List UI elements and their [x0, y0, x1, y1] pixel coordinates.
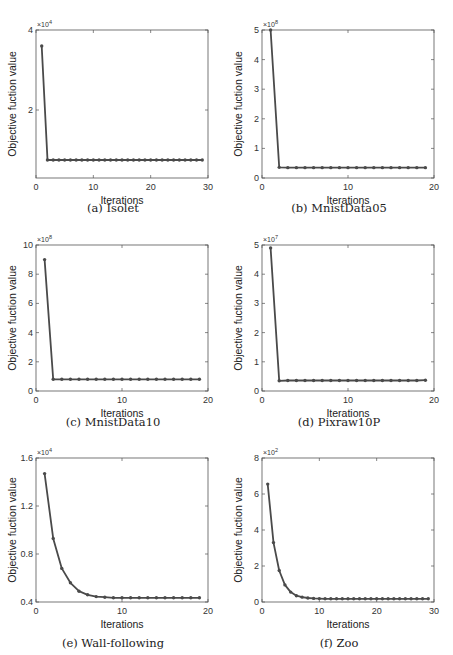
data-point-marker: [163, 596, 166, 599]
x-tick-label: 20: [429, 395, 439, 405]
data-point-marker: [295, 594, 298, 597]
chart-zoo: 010203002468×102IterationsObjective fuct…: [226, 436, 452, 636]
y-tick-label: 4: [254, 55, 259, 65]
data-point-marker: [369, 597, 372, 600]
data-point-marker: [63, 158, 66, 161]
data-point-marker: [321, 166, 324, 169]
y-tick-label: 5: [254, 240, 259, 250]
data-point-marker: [97, 158, 100, 161]
data-point-marker: [120, 158, 123, 161]
data-point-marker: [138, 158, 141, 161]
chart-mnistdata05: 01020012345×108IterationsObjective fucti…: [226, 0, 452, 200]
x-tick-label: 0: [33, 182, 38, 192]
data-point-marker: [306, 596, 309, 599]
data-point-marker: [338, 379, 341, 382]
data-point-marker: [389, 166, 392, 169]
data-point-marker: [183, 158, 186, 161]
panel-isolet: 010203024×104IterationsObjective fuction…: [0, 0, 226, 218]
x-tick-label: 10: [117, 606, 127, 616]
data-point-marker: [386, 597, 389, 600]
data-point-marker: [132, 158, 135, 161]
x-tick-label: 20: [203, 395, 213, 405]
caption-isolet: (a) Isolet: [0, 201, 226, 215]
x-tick-label: 0: [33, 606, 38, 616]
x-tick-label: 10: [88, 182, 98, 192]
y-tick-label: 3: [254, 84, 259, 94]
y-tick-label: 0: [28, 386, 33, 396]
y-exponent-label: ×108: [263, 19, 278, 28]
y-tick-label: 8: [28, 269, 33, 279]
data-point-marker: [129, 378, 132, 381]
y-tick-label: 8: [254, 453, 259, 463]
data-point-marker: [95, 378, 98, 381]
data-point-marker: [398, 597, 401, 600]
data-point-marker: [372, 379, 375, 382]
data-point-marker: [338, 166, 341, 169]
series-line: [42, 46, 203, 160]
x-tick-label: 20: [429, 182, 439, 192]
data-point-marker: [415, 379, 418, 382]
y-tick-label: 4: [28, 25, 33, 35]
data-point-marker: [52, 158, 55, 161]
data-point-marker: [198, 596, 201, 599]
data-point-marker: [392, 597, 395, 600]
data-point-marker: [178, 158, 181, 161]
data-point-marker: [77, 590, 80, 593]
data-point-marker: [407, 379, 410, 382]
data-point-marker: [398, 379, 401, 382]
data-point-marker: [189, 158, 192, 161]
y-tick-label: 6: [28, 298, 33, 308]
data-point-marker: [289, 590, 292, 593]
data-point-marker: [278, 166, 281, 169]
panel-pixraw10p: 01020012345×107IterationsObjective fucti…: [226, 218, 452, 436]
chart-mnistdata10: 010200246810×108IterationsObjective fuct…: [0, 218, 226, 418]
data-point-marker: [424, 378, 427, 381]
y-tick-label: 0: [254, 597, 259, 607]
data-point-marker: [181, 596, 184, 599]
data-point-marker: [155, 378, 158, 381]
data-point-marker: [112, 378, 115, 381]
y-tick-label: 1: [254, 143, 259, 153]
data-point-marker: [323, 597, 326, 600]
data-point-marker: [46, 158, 49, 161]
y-tick-label: 10: [23, 240, 33, 250]
data-point-marker: [303, 166, 306, 169]
data-point-marker: [404, 597, 407, 600]
data-point-marker: [43, 258, 46, 261]
y-exponent-label: ×104: [37, 447, 52, 456]
data-point-marker: [57, 158, 60, 161]
data-point-marker: [278, 379, 281, 382]
data-point-marker: [163, 378, 166, 381]
data-point-marker: [60, 378, 63, 381]
data-point-marker: [346, 597, 349, 600]
y-axis-label: Objective fuction value: [232, 477, 244, 583]
data-point-marker: [364, 166, 367, 169]
data-point-marker: [372, 166, 375, 169]
data-point-marker: [272, 541, 275, 544]
data-point-marker: [172, 158, 175, 161]
x-axis-label: Iterations: [100, 618, 143, 630]
data-point-marker: [77, 378, 80, 381]
y-axis-label: Objective fuction value: [6, 477, 18, 583]
data-point-marker: [266, 482, 269, 485]
plot-area: [36, 245, 208, 391]
y-tick-label: 4: [254, 269, 259, 279]
y-tick-label: 3: [254, 298, 259, 308]
data-point-marker: [295, 166, 298, 169]
data-point-marker: [69, 378, 72, 381]
y-exponent-label: ×102: [263, 447, 278, 456]
y-tick-label: 2: [28, 357, 33, 367]
data-point-marker: [103, 158, 106, 161]
y-tick-label: 0: [254, 386, 259, 396]
panel-wall-following: 010200.40.81.21.6×104IterationsObjective…: [0, 436, 226, 654]
data-point-marker: [409, 597, 412, 600]
data-point-marker: [381, 166, 384, 169]
data-point-marker: [95, 595, 98, 598]
data-point-marker: [52, 378, 55, 381]
data-point-marker: [341, 597, 344, 600]
y-axis-label: Objective fuction value: [232, 265, 244, 371]
y-tick-label: 5: [254, 25, 259, 35]
data-point-marker: [120, 596, 123, 599]
data-point-marker: [407, 166, 410, 169]
plot-area: [36, 30, 208, 178]
